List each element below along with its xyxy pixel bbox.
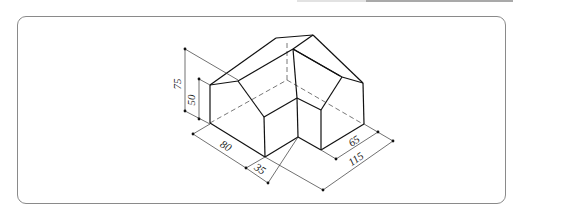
dim-label-65: 65: [346, 132, 362, 148]
dimension-dots: [184, 48, 395, 192]
dim-label-35: 35: [251, 160, 268, 177]
isometric-drawing: 75 50 80 35 65 115: [0, 0, 566, 219]
dim-label-115: 115: [346, 149, 366, 168]
dim-label-75: 75: [171, 78, 183, 90]
dim-label-50: 50: [185, 94, 197, 106]
dimension-lines: [185, 49, 393, 190]
